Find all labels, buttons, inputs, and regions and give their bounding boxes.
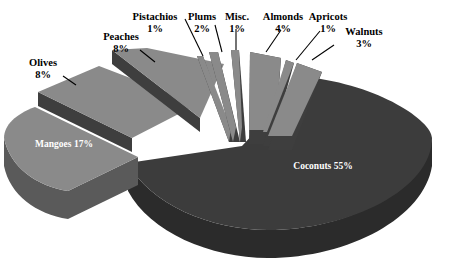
label-coconuts: Coconuts 55% <box>288 161 358 172</box>
label-walnuts: Walnuts 3% <box>337 26 391 49</box>
label-peaches-name: Peaches <box>103 31 139 42</box>
label-olives-name: Olives <box>29 57 57 68</box>
label-plums-name: Plums <box>188 11 216 22</box>
label-mangoes: Mangoes 17% <box>31 139 97 150</box>
label-peaches: Peaches 8% <box>95 31 147 54</box>
label-mangoes-name: Mangoes <box>35 139 71 149</box>
label-olives-pct: 8% <box>21 69 65 81</box>
label-mangoes-pct: 17% <box>74 139 93 149</box>
label-misc-name: Misc. <box>225 11 249 22</box>
label-coconuts-name: Coconuts <box>293 161 331 171</box>
label-apricots-name: Apricots <box>309 11 348 22</box>
label-plums: Plums 2% <box>180 11 224 34</box>
label-plums-pct: 2% <box>180 23 224 35</box>
label-coconuts-pct: 55% <box>334 161 353 171</box>
label-olives: Olives 8% <box>21 57 65 80</box>
label-peaches-pct: 8% <box>95 43 147 55</box>
pie-chart: Pistachios 1% Plums 2% Misc. 1% Almonds … <box>0 0 466 278</box>
label-misc: Misc. 1% <box>219 11 255 34</box>
label-almonds-name: Almonds <box>263 11 303 22</box>
leader-line-walnuts <box>312 45 334 60</box>
leader-line-apricots <box>296 31 320 60</box>
label-misc-pct: 1% <box>219 23 255 35</box>
label-walnuts-name: Walnuts <box>345 26 382 37</box>
label-pistachios-name: Pistachios <box>133 11 178 22</box>
label-walnuts-pct: 3% <box>337 38 391 50</box>
